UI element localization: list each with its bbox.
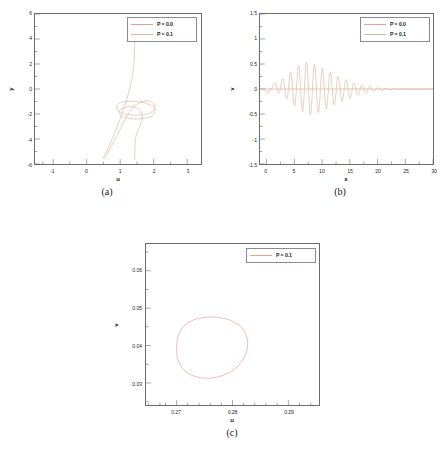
panel-b-legend-label: P = 0.1 <box>390 31 406 37</box>
panel-a-ytick-label: -2 <box>18 111 32 117</box>
panel-a-legend-item: P = 0.1 <box>131 30 193 38</box>
panel-c-caption: (c) <box>226 427 237 438</box>
panel-c-legend: P = 0.1 <box>246 248 316 263</box>
panel-a-xtick-label: -1 <box>50 168 54 174</box>
panel-b-legend: P = 0.0 P = 0.1 <box>360 17 430 42</box>
panel-c-xtick-label: 0.28 <box>228 409 238 415</box>
panel-b-xtick-label: 20 <box>375 168 381 174</box>
panel-a-yaxis-title: y <box>8 87 14 90</box>
panel-b-xtick-label: 30 <box>431 168 437 174</box>
panel-c-yaxis-title: v <box>113 323 119 326</box>
panel-c-plot-frame <box>145 243 320 406</box>
panel-a-ytick-label: 4 <box>18 35 32 41</box>
panel-a-legend: P = 0.0 P = 0.1 <box>127 17 197 42</box>
panel-a-legend-label: P = 0.1 <box>157 31 173 37</box>
panel-a-curve-p01 <box>104 101 155 159</box>
panel-b-xaxis-title: x <box>344 176 347 182</box>
panel-c-xaxis-title: u <box>230 417 234 423</box>
panel-b-xtick-label: 5 <box>292 168 295 174</box>
panel-a-ytick-label: 2 <box>18 61 32 67</box>
panel-a-ytick-label: -6 <box>18 162 32 168</box>
panel-b-xtick-label: 10 <box>319 168 325 174</box>
legend-line-swatch-icon <box>250 255 272 256</box>
panel-b-xticks <box>267 159 433 164</box>
panel-a-xtick-label: 3 <box>187 168 190 174</box>
panel-b-ytick-label: -0.5 <box>239 111 257 117</box>
panel-b-legend-item: P = 0.0 <box>364 20 426 28</box>
panel-c-xtick-label: 0.29 <box>284 409 294 415</box>
panel-b: 1.5 1 0.5 0 -0.5 -1 -1.5 0 5 10 15 20 25… <box>222 0 443 205</box>
panel-c-legend-label: P = 0.1 <box>276 252 292 258</box>
panel-a-yticks <box>35 14 40 164</box>
panel-c-ytick-label: 0.05 <box>122 305 142 311</box>
panel-b-xtick-label: 15 <box>347 168 353 174</box>
legend-line-swatch-icon <box>131 24 153 25</box>
panel-c-curve-p01 <box>177 317 248 378</box>
panel-a-xaxis-title: u <box>116 176 120 182</box>
panel-a-legend-item: P = 0.0 <box>131 20 193 28</box>
panel-b-ytick-label: 0.5 <box>239 61 257 67</box>
panel-b-ytick-label: 1.5 <box>239 10 257 16</box>
panel-c-legend-item: P = 0.1 <box>250 251 312 259</box>
panel-b-caption: (b) <box>334 186 346 197</box>
panel-c-ytick-label: 0.06 <box>122 267 142 273</box>
panel-a-xtick-label: 2 <box>153 168 156 174</box>
panel-b-xtick-label: 0 <box>264 168 267 174</box>
panel-c-ytick-label: 0.03 <box>122 381 142 387</box>
legend-line-swatch-icon <box>131 34 153 35</box>
panel-c-xtick-label: 0.27 <box>171 409 181 415</box>
panel-a-legend-label: P = 0.0 <box>157 21 173 27</box>
figure-root: 6 4 2 0 -2 -4 -6 -1 0 1 2 3 u y P = 0.0 … <box>0 0 443 455</box>
panel-c-yticks <box>146 252 151 402</box>
panel-b-ytick-label: 0 <box>239 86 257 92</box>
panel-b-legend-label: P = 0.0 <box>390 21 406 27</box>
panel-c-xticks <box>149 400 311 405</box>
panel-c-canvas <box>146 244 319 405</box>
panel-a-ytick-label: 0 <box>18 86 32 92</box>
legend-line-swatch-icon <box>364 24 386 25</box>
panel-b-yaxis-title: v <box>229 87 235 90</box>
panel-c-ytick-label: 0.04 <box>122 343 142 349</box>
panel-a-xticks <box>43 159 187 164</box>
panel-a-ytick-label: 6 <box>18 10 32 16</box>
panel-b-ytick-label: 1 <box>239 35 257 41</box>
panel-b-legend-item: P = 0.1 <box>364 30 426 38</box>
panel-a-ytick-label: -4 <box>18 137 32 143</box>
panel-a-xtick-label: 0 <box>85 168 88 174</box>
panel-b-ytick-label: -1 <box>239 137 257 143</box>
panel-b-xtick-label: 25 <box>403 168 409 174</box>
panel-b-ytick-label: -1.5 <box>239 162 257 168</box>
panel-a-xtick-label: 1 <box>119 168 122 174</box>
panel-a-caption: (a) <box>101 186 112 197</box>
panel-a: 6 4 2 0 -2 -4 -6 -1 0 1 2 3 u y P = 0.0 … <box>0 0 215 205</box>
panel-c: 0.06 0.05 0.04 0.03 0.27 0.28 0.29 u v P… <box>110 215 360 455</box>
panel-b-curve-p01 <box>260 62 433 114</box>
legend-line-swatch-icon <box>364 34 386 35</box>
